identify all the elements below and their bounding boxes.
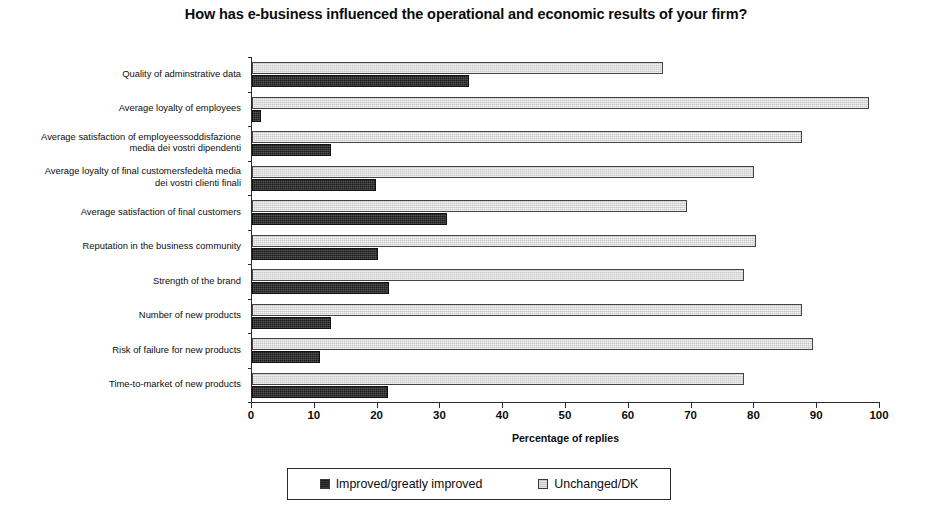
category-label: Number of new products (0, 309, 241, 321)
x-axis-title: Percentage of replies (251, 432, 880, 444)
y-axis-tick (248, 264, 252, 265)
x-axis-tick-label: 80 (747, 409, 760, 421)
bar-group (252, 126, 880, 161)
bar-improved (252, 248, 378, 260)
y-axis-tick (248, 230, 252, 231)
legend-label: Improved/greatly improved (336, 477, 483, 491)
x-axis-tick (565, 403, 566, 408)
x-axis-tick (753, 403, 754, 408)
bar-improved (252, 282, 389, 294)
x-axis-tick-label: 0 (248, 409, 254, 421)
bar-unchanged (252, 166, 754, 178)
category-label: Quality of adminstrative data (0, 68, 241, 80)
x-axis-tick (502, 403, 503, 408)
bar-improved (252, 317, 331, 329)
legend-swatch-icon (538, 479, 548, 489)
x-axis-tick-label: 60 (621, 409, 634, 421)
chart-container: How has e-business influenced the operat… (0, 0, 932, 515)
category-label: Risk of failure for new products (0, 344, 241, 356)
plot-area (251, 57, 880, 402)
bar-improved (252, 110, 261, 122)
category-label-line: Number of new products (0, 309, 241, 321)
category-label-line: Reputation in the business community (0, 240, 241, 252)
category-label-line: dei vostri clienti finali (0, 177, 241, 189)
category-label: Average satisfaction of employeessoddisf… (0, 131, 241, 154)
bar-group (252, 333, 880, 368)
bar-improved (252, 144, 331, 156)
bar-group (252, 368, 880, 403)
y-axis-tick (248, 161, 252, 162)
x-axis-tick (314, 403, 315, 408)
bar-unchanged (252, 235, 756, 247)
legend-swatch-icon (320, 479, 330, 489)
category-label: Average loyalty of employees (0, 102, 241, 114)
bar-unchanged (252, 269, 744, 281)
bar-improved (252, 386, 388, 398)
x-axis-tick (691, 403, 692, 408)
x-axis-tick-label: 90 (810, 409, 823, 421)
bar-group (252, 92, 880, 127)
bar-improved (252, 351, 320, 363)
x-axis-tick (377, 403, 378, 408)
bar-improved (252, 75, 469, 87)
x-axis-tick (628, 403, 629, 408)
category-label-line: Time-to-market of new products (0, 378, 241, 390)
bar-improved (252, 213, 447, 225)
category-label: Reputation in the business community (0, 240, 241, 252)
y-axis-tick (248, 57, 252, 58)
bar-group (252, 230, 880, 265)
bar-group (252, 299, 880, 334)
bar-unchanged (252, 373, 744, 385)
category-axis-labels: Quality of adminstrative dataAverage loy… (0, 57, 246, 402)
bar-unchanged (252, 131, 802, 143)
bar-group (252, 57, 880, 92)
x-axis-tick-label: 40 (496, 409, 509, 421)
bar-rows (252, 57, 880, 402)
bar-group (252, 161, 880, 196)
x-axis-tick (439, 403, 440, 408)
bar-unchanged (252, 97, 869, 109)
y-axis-tick (248, 126, 252, 127)
chart-legend: Improved/greatly improvedUnchanged/DK (287, 468, 671, 500)
category-label-line: Average loyalty of employees (0, 102, 241, 114)
x-axis-tick-label: 100 (869, 409, 888, 421)
bar-unchanged (252, 338, 813, 350)
category-label: Time-to-market of new products (0, 378, 241, 390)
legend-item[interactable]: Unchanged/DK (538, 477, 638, 491)
x-axis-tick (879, 403, 880, 408)
legend-item[interactable]: Improved/greatly improved (320, 477, 483, 491)
bar-group (252, 264, 880, 299)
category-label-line: Average loyalty of final customersfedelt… (0, 165, 241, 177)
x-axis-tick-label: 70 (684, 409, 697, 421)
category-label-line: media dei vostri dipendenti (0, 142, 241, 154)
y-axis-tick (248, 299, 252, 300)
x-axis-tick (816, 403, 817, 408)
category-label-line: Risk of failure for new products (0, 344, 241, 356)
category-label-line: Average satisfaction of employeessoddisf… (0, 131, 241, 143)
category-label: Average loyalty of final customersfedelt… (0, 165, 241, 188)
x-axis-tick (251, 403, 252, 408)
x-axis-tick-label: 50 (559, 409, 572, 421)
bar-group (252, 195, 880, 230)
bar-unchanged (252, 200, 687, 212)
chart-title: How has e-business influenced the operat… (0, 6, 932, 22)
x-axis-tick-label: 30 (433, 409, 446, 421)
bar-improved (252, 179, 376, 191)
y-axis-tick (248, 92, 252, 93)
category-label-line: Quality of adminstrative data (0, 68, 241, 80)
legend-label: Unchanged/DK (554, 477, 638, 491)
category-label: Strength of the brand (0, 275, 241, 287)
y-axis-tick (248, 368, 252, 369)
x-axis-tick-labels: 0102030405060708090100 (251, 409, 880, 425)
bar-unchanged (252, 304, 802, 316)
y-axis-tick (248, 195, 252, 196)
bar-unchanged (252, 62, 663, 74)
category-label-line: Average satisfaction of final customers (0, 206, 241, 218)
x-axis-tick-label: 10 (307, 409, 320, 421)
y-axis-tick (248, 333, 252, 334)
x-axis-tick-label: 20 (370, 409, 383, 421)
category-label: Average satisfaction of final customers (0, 206, 241, 218)
category-label-line: Strength of the brand (0, 275, 241, 287)
